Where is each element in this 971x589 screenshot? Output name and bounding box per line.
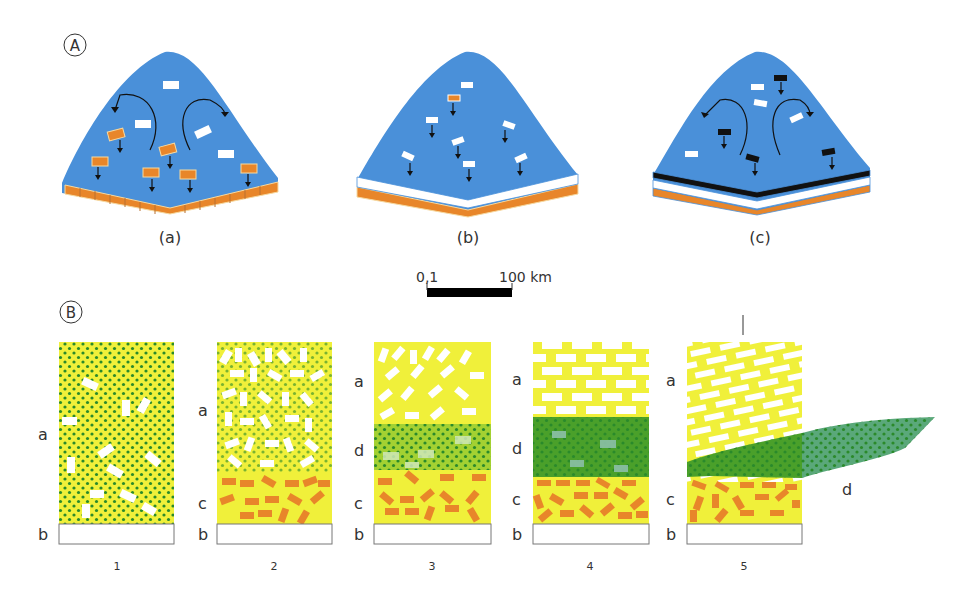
label-b: b [198,525,208,544]
basin-a: (a) [62,52,278,247]
label-d: d [354,441,364,460]
column-1: a b 1 [38,342,174,573]
column-number: 1 [114,560,121,573]
label-d: d [512,439,522,458]
column-number: 3 [429,560,436,573]
scale-left-label: 0,1 [416,269,438,285]
svg-text:A: A [70,37,81,55]
label-b: b [512,525,522,544]
column-number: 2 [271,560,278,573]
label-a: a [666,371,676,390]
label-b: b [38,525,48,544]
column-5: a c b d 5 [666,315,935,573]
panel-b-marker: B [60,301,82,323]
label-c: c [354,494,363,513]
label-a: a [512,370,522,389]
column-number: 4 [587,560,594,573]
column-2: a c b 2 [198,342,332,573]
sedimentation-diagram: A (a) (b) [0,0,971,589]
label-d: d [842,480,852,499]
label-a: a [38,425,48,444]
caption-a: (a) [159,228,181,247]
scale-bar: 0,1 100 km [416,269,552,297]
basin-b: (b) [357,52,578,247]
scale-right-label: 100 km [499,269,552,285]
label-b: b [354,525,364,544]
label-c: c [512,490,521,509]
label-a: a [198,401,208,420]
caption-b: (b) [457,228,480,247]
column-4: a d c b 4 [512,342,649,573]
column-3: a d c b 3 [354,342,491,573]
label-b: b [666,525,676,544]
label-c: c [666,490,675,509]
panel-a-marker: A [64,34,86,56]
label-a: a [354,372,364,391]
label-c: c [198,494,207,513]
caption-c: (c) [749,228,770,247]
svg-text:B: B [66,304,76,322]
column-number: 5 [741,560,748,573]
basin-c: (c) [653,52,870,247]
